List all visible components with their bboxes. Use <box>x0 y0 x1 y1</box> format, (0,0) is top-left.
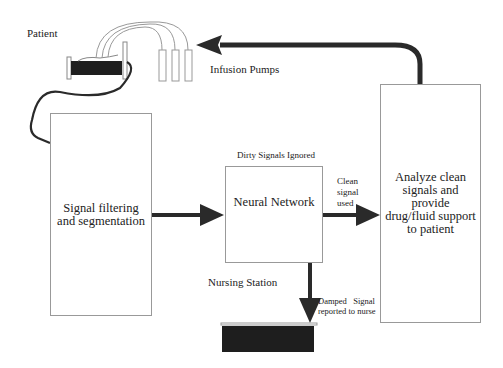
arrow-head-filter-to-nn <box>200 204 224 226</box>
nursing-station-label: Nursing Station <box>208 276 277 288</box>
bed-right-post <box>123 42 127 79</box>
bed-left-post <box>67 57 71 79</box>
filter-line-2: and segmentation <box>57 214 145 228</box>
damped-signal-label: Damped Signalreported to nurse <box>318 296 376 316</box>
dirty-signals-label: Dirty Signals Ignored <box>237 150 315 160</box>
patient-bed-icon <box>71 61 122 75</box>
clean-signal-label: Clean signal used <box>337 176 359 209</box>
patient-body-outline <box>78 55 118 61</box>
infusion-pump-2 <box>172 50 179 81</box>
infusion-pumps-label: Infusion Pumps <box>210 63 279 75</box>
signal-filtering-box: Signal filteringand segmentation <box>50 113 152 316</box>
arrow-head-nn-to-analyze <box>356 204 380 226</box>
filter-line-1: Signal filtering <box>63 201 138 215</box>
infusion-pump-1 <box>159 50 166 81</box>
nursing-station-icon <box>222 326 314 352</box>
patient-label: Patient <box>27 27 58 39</box>
nursing-station-top <box>221 323 317 325</box>
feedback-arrow-head <box>196 35 222 55</box>
infusion-pump-3 <box>185 50 192 81</box>
neural-network-label: Neural Network <box>234 196 315 209</box>
tube-1 <box>108 27 162 57</box>
neural-network-box: Neural Network <box>225 166 323 263</box>
analyze-box: Analyze clean signals and provide drug/f… <box>380 84 481 323</box>
